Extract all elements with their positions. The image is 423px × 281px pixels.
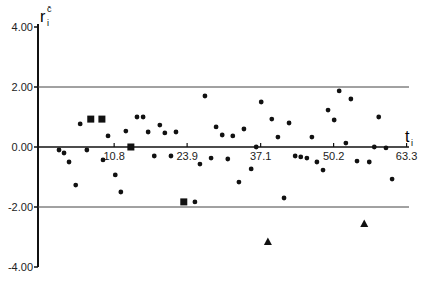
- circle-point: [67, 160, 72, 165]
- circle-point: [141, 115, 146, 120]
- circle-point: [348, 97, 353, 102]
- triangle-point: [360, 220, 368, 228]
- circle-point: [62, 151, 67, 156]
- square-point: [87, 116, 94, 123]
- circle-point: [321, 168, 326, 173]
- circle-point: [225, 157, 230, 162]
- circle-point: [174, 130, 179, 135]
- scatter-chart: 4.002.000.00-2.00-4.0010.823.937.150.263…: [0, 0, 423, 281]
- circle-point: [237, 180, 242, 185]
- circle-point: [198, 162, 203, 167]
- circle-point: [118, 190, 123, 195]
- circle-point: [123, 129, 128, 134]
- circle-point: [376, 115, 381, 120]
- circle-point: [326, 108, 331, 113]
- circle-point: [73, 183, 78, 188]
- circle-point: [355, 159, 360, 164]
- circle-point: [249, 167, 254, 172]
- circle-point: [293, 154, 298, 159]
- circle-point: [209, 156, 214, 161]
- y-tick-label: -4.00: [8, 261, 33, 273]
- circle-point: [282, 196, 287, 201]
- y-tick-label: 0.00: [12, 141, 33, 153]
- x-axis-label: t: [405, 128, 410, 145]
- circle-point: [390, 177, 395, 182]
- x-tick-label: 37.1: [250, 150, 271, 162]
- circle-point: [78, 122, 83, 127]
- circle-point: [169, 154, 174, 159]
- circle-point: [135, 115, 140, 120]
- circle-point: [220, 133, 225, 138]
- circle-point: [315, 160, 320, 165]
- circle-point: [276, 135, 281, 140]
- square-point: [180, 198, 187, 205]
- circle-point: [230, 134, 235, 139]
- circle-point: [214, 125, 219, 130]
- x-tick-label: 23.9: [176, 150, 197, 162]
- x-tick-label: 50.2: [323, 150, 344, 162]
- circle-point: [259, 100, 264, 105]
- y-tick-label: -2.00: [8, 201, 33, 213]
- axes: 4.002.000.00-2.00-4.0010.823.937.150.263…: [8, 4, 417, 273]
- circle-point: [332, 118, 337, 123]
- circle-point: [254, 145, 259, 150]
- x-tick-label: 10.8: [103, 150, 124, 162]
- circle-point: [157, 123, 162, 128]
- y-axis-label-sup: c̄: [47, 4, 52, 14]
- circle-point: [298, 155, 303, 160]
- circle-point: [309, 135, 314, 140]
- data-points: [57, 89, 395, 246]
- circle-point: [193, 200, 198, 205]
- circle-point: [367, 160, 372, 165]
- y-axis-label-sub: i: [47, 18, 49, 28]
- circle-point: [106, 134, 111, 139]
- circle-point: [203, 94, 208, 99]
- triangle-point: [264, 238, 272, 246]
- circle-point: [372, 145, 377, 150]
- circle-point: [146, 130, 151, 135]
- circle-point: [343, 141, 348, 146]
- square-point: [98, 116, 105, 123]
- x-axis-label-sub: i: [411, 138, 413, 148]
- circle-point: [287, 121, 292, 126]
- circle-point: [113, 173, 118, 178]
- y-axis-label: r: [40, 8, 46, 25]
- circle-point: [152, 154, 157, 159]
- circle-point: [101, 158, 106, 163]
- circle-point: [84, 148, 89, 153]
- circle-point: [57, 148, 62, 153]
- square-point: [127, 144, 134, 151]
- y-tick-label: 2.00: [12, 81, 33, 93]
- circle-point: [242, 127, 247, 132]
- circle-point: [304, 156, 309, 161]
- circle-point: [384, 146, 389, 151]
- x-tick-label: 63.3: [396, 150, 417, 162]
- y-tick-label: 4.00: [12, 21, 33, 33]
- circle-point: [269, 117, 274, 122]
- circle-point: [162, 131, 167, 136]
- circle-point: [337, 89, 342, 94]
